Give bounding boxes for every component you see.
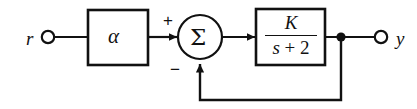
denominator-operator: + <box>280 37 300 58</box>
output-terminal-circle <box>375 31 387 43</box>
gain-block-label: α <box>108 26 119 47</box>
diagram-vector-layer <box>0 0 417 109</box>
block-diagram-figure: r α Σ + − K s + 2 y <box>0 0 417 109</box>
transfer-function-fraction: K s + 2 <box>262 13 320 59</box>
fraction-bar <box>265 35 317 37</box>
output-signal-label: y <box>396 29 404 48</box>
negative-sign-label: − <box>170 61 180 78</box>
denominator-constant: 2 <box>300 37 310 58</box>
transfer-function-numerator: K <box>262 13 320 33</box>
positive-sign-label: + <box>163 12 173 29</box>
input-terminal-circle <box>42 31 54 43</box>
denominator-variable: s <box>272 37 279 58</box>
transfer-function-denominator: s + 2 <box>262 37 320 59</box>
input-signal-label: r <box>26 29 33 48</box>
summing-junction-sigma-label: Σ <box>190 26 206 49</box>
